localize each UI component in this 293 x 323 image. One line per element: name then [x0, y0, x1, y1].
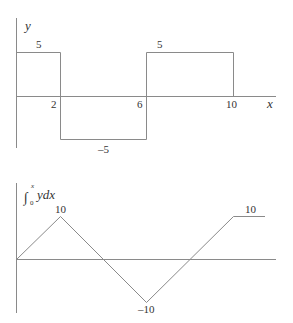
- bottom-chart: ∫ x 0 ydx 10 –10 10: [16, 182, 276, 315]
- integral-lower-limit: 0: [30, 199, 34, 207]
- x-tick-6: 6: [137, 98, 143, 110]
- trough-label: –10: [137, 303, 155, 315]
- y-axis-label: y: [23, 18, 31, 33]
- value-label-left: 5: [36, 38, 42, 50]
- value-label-right: 5: [157, 38, 163, 50]
- x-axis-label: x: [266, 96, 273, 111]
- figure: y 5 5 –5 2 6 10 x ∫ x 0 ydx 10 –10 10: [0, 0, 293, 323]
- value-label-mid: –5: [97, 143, 110, 155]
- peak-label: 10: [55, 203, 67, 215]
- integrand-label: ydx: [35, 187, 55, 202]
- end-label: 10: [245, 203, 257, 215]
- x-tick-10: 10: [226, 98, 238, 110]
- x-tick-2: 2: [51, 98, 57, 110]
- integral-upper-limit: x: [30, 182, 35, 190]
- integral-sign: ∫: [23, 190, 29, 206]
- top-chart: y 5 5 –5 2 6 10 x: [16, 18, 276, 155]
